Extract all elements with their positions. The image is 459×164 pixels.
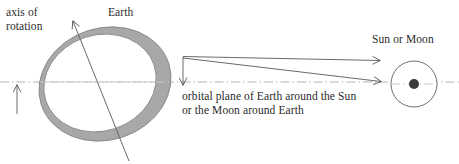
label-orbital-plane: orbital plane of Earth around the Sun or… <box>182 90 356 117</box>
label-axis-of-rotation: axis of rotation <box>6 6 43 33</box>
label-earth: Earth <box>108 6 133 20</box>
astronomy-diagram-figure: axis of rotation Earth Sun or Moon orbit… <box>0 0 459 164</box>
diagram-canvas <box>0 0 459 164</box>
sun-or-moon-center-dot <box>409 79 419 89</box>
label-sun-or-moon: Sun or Moon <box>372 33 434 47</box>
sun-or-moon-body <box>391 61 437 107</box>
